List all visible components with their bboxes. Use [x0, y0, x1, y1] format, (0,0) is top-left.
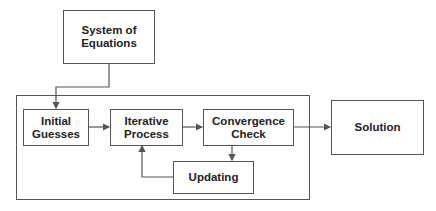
node-system-of-equations: System of Equations	[63, 10, 155, 64]
node-iterative-process: Iterative Process	[110, 109, 183, 146]
node-initial-guesses: Initial Guesses	[23, 109, 89, 146]
node-label-line: Convergence	[212, 115, 285, 128]
edge-updating-to-iterative	[142, 146, 173, 177]
node-label-line: Solution	[355, 121, 401, 134]
node-label-line: Updating	[189, 171, 239, 184]
node-convergence-check: Convergence Check	[203, 109, 294, 146]
node-solution: Solution	[331, 100, 424, 155]
node-label-line: Initial	[32, 115, 80, 128]
node-label-line: Check	[212, 128, 285, 141]
node-label-line: Process	[124, 128, 169, 141]
node-label-line: Equations	[81, 37, 137, 50]
edge-system-to-initial	[56, 63, 109, 108]
node-label-line: System of	[81, 24, 137, 37]
node-updating: Updating	[173, 161, 254, 194]
node-label-line: Guesses	[32, 128, 80, 141]
node-label-line: Iterative	[124, 115, 169, 128]
